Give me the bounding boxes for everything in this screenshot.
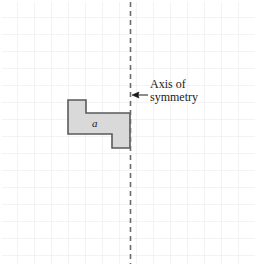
axis-label-line-1: Axis of: [150, 78, 198, 91]
axis-of-symmetry-label: Axis of symmetry: [150, 78, 198, 103]
figure-artwork: [0, 0, 256, 266]
shape-side-label: a: [92, 117, 98, 129]
axis-label-line-2: symmetry: [150, 91, 198, 104]
annotation-arrow: [132, 92, 148, 98]
geometry-figure: Axis of symmetry a: [0, 0, 256, 266]
shaded-polygon: [68, 100, 130, 148]
